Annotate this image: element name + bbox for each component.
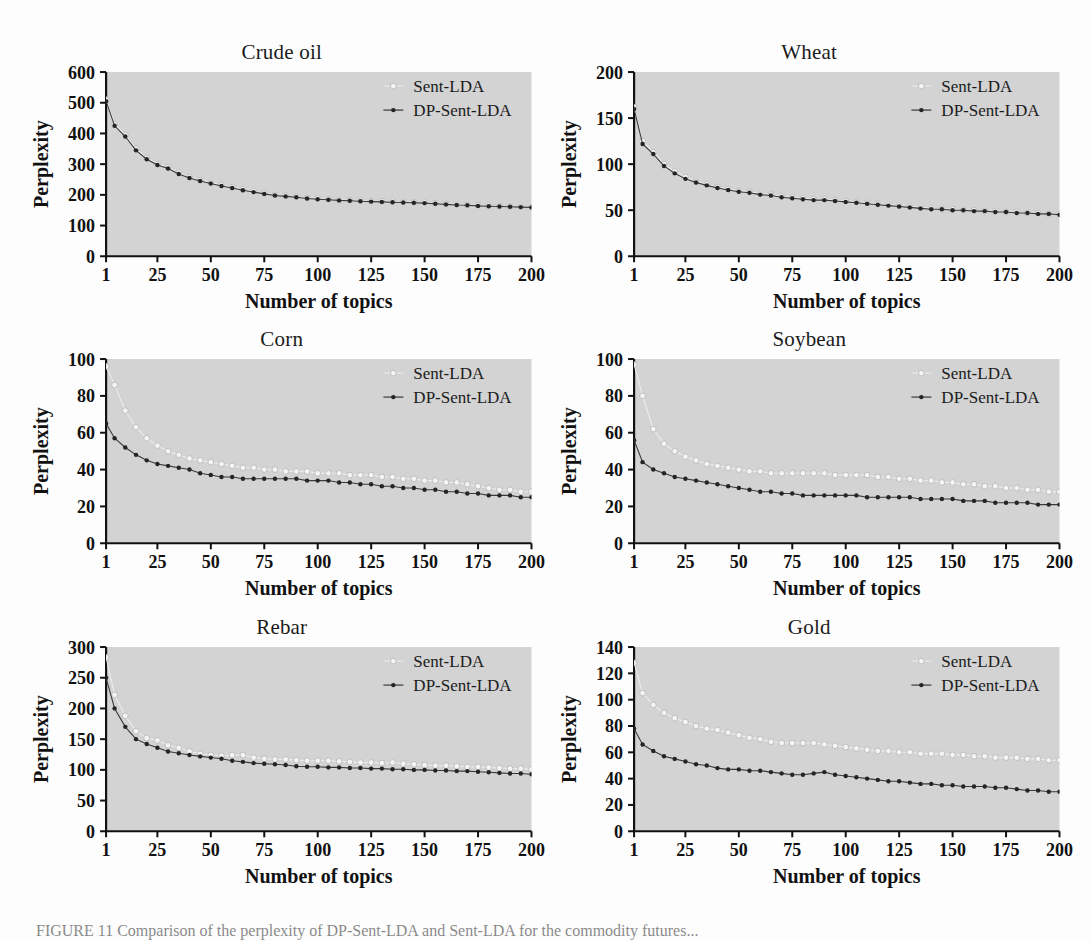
data-point <box>661 441 667 447</box>
data-point <box>229 752 235 758</box>
data-point <box>715 186 719 190</box>
data-point <box>725 767 729 771</box>
data-point <box>294 195 298 199</box>
data-point <box>144 735 150 741</box>
data-point <box>810 471 816 477</box>
plot-background <box>634 359 1059 543</box>
y-tick-label: 0 <box>86 821 95 841</box>
data-point <box>843 494 847 498</box>
data-point <box>262 477 266 481</box>
data-point <box>262 761 266 765</box>
data-point <box>293 757 299 763</box>
data-point <box>1035 756 1041 762</box>
y-axis-title: Perplexity <box>30 408 53 496</box>
y-axis-title: Perplexity <box>558 120 581 208</box>
data-point <box>251 190 255 194</box>
legend-label-dp-sent-lda: DP-Sent-LDA <box>941 676 1040 695</box>
data-point <box>961 499 965 503</box>
x-tick-label: 150 <box>411 840 438 860</box>
data-point <box>103 654 109 660</box>
data-point <box>1025 501 1029 505</box>
legend-label-dp-sent-lda: DP-Sent-LDA <box>413 101 512 120</box>
data-point <box>304 469 310 475</box>
data-point <box>682 719 688 725</box>
data-point <box>768 770 772 774</box>
data-point <box>487 770 491 774</box>
data-point <box>639 690 645 696</box>
data-point <box>133 425 139 431</box>
data-point <box>1003 754 1009 760</box>
data-point <box>993 785 997 789</box>
y-tick-label: 200 <box>68 185 95 205</box>
data-point <box>661 754 665 758</box>
y-tick-label: 200 <box>596 63 623 83</box>
data-point <box>315 471 321 477</box>
figure-caption: FIGURE 11 Comparison of the perplexity o… <box>36 920 1056 940</box>
data-point <box>683 759 687 763</box>
data-point <box>358 473 364 479</box>
data-point <box>155 737 161 743</box>
panel-soybean: Soybean 02040608010012550751001251501752… <box>546 321 1074 608</box>
data-point <box>272 756 278 762</box>
data-point <box>757 469 763 475</box>
data-point <box>529 495 533 499</box>
data-point <box>1003 210 1007 214</box>
data-point <box>800 740 806 746</box>
data-point <box>982 784 986 788</box>
x-tick-label: 100 <box>832 265 859 285</box>
y-tick-label: 140 <box>596 637 623 657</box>
data-point <box>369 482 373 486</box>
x-tick-label: 125 <box>358 840 385 860</box>
data-point <box>198 471 202 475</box>
data-point <box>929 781 933 785</box>
data-point <box>950 783 954 787</box>
data-point <box>704 183 708 187</box>
data-point <box>486 764 492 770</box>
data-point <box>390 474 396 480</box>
x-tick-label: 125 <box>885 840 912 860</box>
data-point <box>747 768 751 772</box>
data-point <box>401 486 405 490</box>
data-point <box>790 492 794 496</box>
x-tick-label: 100 <box>304 840 331 860</box>
legend-label-sent-lda: Sent-LDA <box>941 77 1013 96</box>
data-point <box>283 477 287 481</box>
y-tick-label: 20 <box>605 795 623 815</box>
data-point <box>475 484 481 490</box>
data-point <box>380 484 384 488</box>
panel-corn: Corn 0204060801001255075100125150175200N… <box>18 321 546 608</box>
data-point <box>347 473 353 479</box>
x-tick-label: 50 <box>729 265 747 285</box>
data-point <box>746 735 752 741</box>
data-point <box>874 748 880 754</box>
data-point <box>853 745 859 751</box>
data-point <box>939 783 943 787</box>
x-tick-label: 150 <box>411 553 438 573</box>
legend-label-dp-sent-lda: DP-Sent-LDA <box>413 676 512 695</box>
legend-label-sent-lda: Sent-LDA <box>413 652 485 671</box>
data-point <box>358 765 362 769</box>
data-point <box>843 200 847 204</box>
data-point <box>1057 503 1061 507</box>
x-tick-label: 75 <box>255 265 273 285</box>
data-point <box>1003 785 1007 789</box>
data-point <box>508 494 512 498</box>
data-point <box>358 482 362 486</box>
panel-rebar: Rebar 0501001502002503001255075100125150… <box>18 609 546 896</box>
data-point <box>497 204 501 208</box>
data-point <box>725 729 731 735</box>
data-point <box>464 764 470 770</box>
data-point <box>380 766 384 770</box>
x-tick-label: 175 <box>465 265 492 285</box>
data-point <box>1024 756 1030 762</box>
data-point <box>1046 503 1050 507</box>
y-tick-label: 120 <box>596 664 623 684</box>
data-point <box>639 393 645 399</box>
data-point <box>683 477 687 481</box>
x-tick-label: 50 <box>729 553 747 573</box>
data-point <box>209 181 213 185</box>
data-point <box>305 196 309 200</box>
legend-marker-dp-sent-lda-dot <box>919 683 923 687</box>
data-point <box>166 464 170 468</box>
data-point <box>651 152 655 156</box>
